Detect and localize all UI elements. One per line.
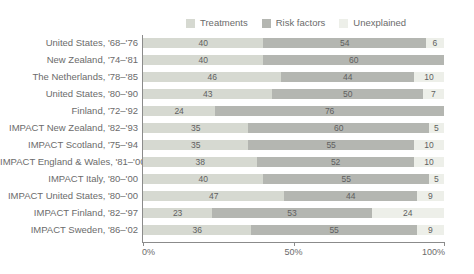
- x-axis-tick: [143, 242, 144, 246]
- bar-segment[interactable]: 55: [248, 140, 414, 150]
- legend-item[interactable]: Unexplained: [339, 18, 406, 28]
- bar-segment[interactable]: 52: [257, 157, 414, 167]
- legend-swatch-icon: [186, 19, 195, 28]
- bar-segment[interactable]: 35: [143, 123, 248, 133]
- y-axis-category-label: Finland, '72–'92: [0, 106, 138, 116]
- bar-segment[interactable]: 9: [417, 225, 444, 235]
- bar-segment[interactable]: 40: [143, 174, 263, 184]
- bar-value-label: 36: [192, 226, 201, 235]
- bar-row[interactable]: 47449: [143, 191, 444, 201]
- x-axis-tick: [294, 242, 295, 246]
- bar-segment[interactable]: 46: [143, 72, 281, 82]
- y-axis-category-label: United States, '80–'90: [0, 89, 138, 99]
- bar-value-label: 9: [428, 226, 433, 235]
- bar-value-label: 60: [349, 56, 358, 65]
- bar-value-label: 5: [434, 175, 439, 184]
- bar-segment[interactable]: 10: [414, 72, 444, 82]
- bar-segment[interactable]: 9: [417, 191, 444, 201]
- bar-value-label: 35: [191, 124, 200, 133]
- bar-row[interactable]: 4060: [143, 55, 444, 65]
- bar-row[interactable]: 35605: [143, 123, 444, 133]
- bar-segment[interactable]: 7: [423, 89, 444, 99]
- bar-row[interactable]: 40555: [143, 174, 444, 184]
- bar-segment[interactable]: 38: [143, 157, 257, 167]
- bar-row[interactable]: 36559: [143, 225, 444, 235]
- bar-value-label: 40: [198, 175, 207, 184]
- legend-item[interactable]: Risk factors: [262, 18, 326, 28]
- bar-value-label: 24: [403, 209, 412, 218]
- bar-value-label: 6: [433, 39, 438, 48]
- bar-segment[interactable]: 5: [429, 174, 444, 184]
- x-axis-tick-label: 50%: [285, 247, 303, 257]
- bar-row[interactable]: 43507: [143, 89, 444, 99]
- bar-value-label: 47: [209, 192, 218, 201]
- bar-segment[interactable]: 23: [143, 208, 212, 218]
- bar-segment[interactable]: 53: [212, 208, 372, 218]
- y-axis-category-label: United States, '68–'76: [0, 38, 138, 48]
- bar-value-label: 55: [341, 175, 350, 184]
- bar-value-label: 43: [203, 90, 212, 99]
- y-axis-category-label: IMPACT Scotland, '75–'94: [0, 140, 138, 150]
- bar-row[interactable]: 235324: [143, 208, 444, 218]
- bar-segment[interactable]: 44: [281, 72, 413, 82]
- bar-segment[interactable]: 54: [263, 38, 426, 48]
- bar-value-label: 50: [343, 90, 352, 99]
- bar-row[interactable]: 355510: [143, 140, 444, 150]
- bar-value-label: 40: [198, 56, 207, 65]
- chart-legend: TreatmentsRisk factorsUnexplained: [186, 16, 406, 30]
- bar-segment[interactable]: 76: [215, 106, 444, 116]
- bar-segment[interactable]: 10: [414, 157, 444, 167]
- bar-segment[interactable]: 5: [429, 123, 444, 133]
- bar-segment[interactable]: 44: [284, 191, 416, 201]
- legend-swatch-icon: [339, 19, 348, 28]
- bar-value-label: 38: [195, 158, 204, 167]
- legend-label: Unexplained: [353, 18, 406, 28]
- bar-segment[interactable]: 60: [263, 55, 444, 65]
- bar-value-label: 23: [173, 209, 182, 218]
- bar-value-label: 60: [334, 124, 343, 133]
- bar-value-label: 44: [346, 192, 355, 201]
- bar-segment[interactable]: 40: [143, 38, 263, 48]
- bar-value-label: 46: [207, 73, 216, 82]
- y-axis-category-label: IMPACT New Zealand, '82–'93: [0, 123, 138, 133]
- bar-value-label: 9: [428, 192, 433, 201]
- x-axis-tick-label: 100%: [422, 247, 445, 257]
- bar-value-label: 10: [424, 141, 433, 150]
- bar-row[interactable]: 40546: [143, 38, 444, 48]
- bar-segment[interactable]: 24: [372, 208, 444, 218]
- legend-label: Risk factors: [276, 18, 326, 28]
- bar-segment[interactable]: 55: [251, 225, 417, 235]
- bar-segment[interactable]: 6: [426, 38, 444, 48]
- bar-value-label: 10: [424, 158, 433, 167]
- bar-segment[interactable]: 50: [272, 89, 423, 99]
- y-axis-category-label: The Netherlands, '78–'85: [0, 72, 138, 82]
- bar-value-label: 76: [325, 107, 334, 116]
- bar-segment[interactable]: 10: [414, 140, 444, 150]
- bar-value-label: 7: [431, 90, 436, 99]
- bar-value-label: 5: [434, 124, 439, 133]
- bar-segment[interactable]: 43: [143, 89, 272, 99]
- bar-segment[interactable]: 60: [248, 123, 429, 133]
- bar-value-label: 10: [424, 73, 433, 82]
- bar-segment[interactable]: 35: [143, 140, 248, 150]
- bar-row[interactable]: 464410: [143, 72, 444, 82]
- x-axis-tick: [444, 242, 445, 246]
- bar-segment[interactable]: 47: [143, 191, 284, 201]
- bar-value-label: 55: [329, 226, 338, 235]
- legend-item[interactable]: Treatments: [186, 18, 248, 28]
- stacked-bar-chart: TreatmentsRisk factorsUnexplained United…: [0, 0, 474, 274]
- bar-value-label: 52: [331, 158, 340, 167]
- y-axis-category-label: IMPACT Finland, '82–'97: [0, 208, 138, 218]
- bar-value-label: 44: [343, 73, 352, 82]
- bar-segment[interactable]: 24: [143, 106, 215, 116]
- bar-value-label: 53: [287, 209, 296, 218]
- y-axis-category-label: IMPACT Italy, '80–'00: [0, 174, 138, 184]
- bar-segment[interactable]: 55: [263, 174, 429, 184]
- y-axis-category-labels: United States, '68–'76New Zealand, '74–'…: [0, 35, 138, 242]
- legend-swatch-icon: [262, 19, 271, 28]
- bar-segment[interactable]: 40: [143, 55, 263, 65]
- bar-row[interactable]: 2476: [143, 106, 444, 116]
- bar-row[interactable]: 385210: [143, 157, 444, 167]
- y-axis-category-label: IMPACT United States, '80–'00: [0, 191, 138, 201]
- bar-segment[interactable]: 36: [143, 225, 251, 235]
